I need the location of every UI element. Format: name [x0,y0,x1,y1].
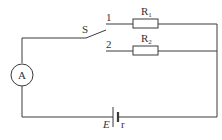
resistor-r2 [133,46,158,55]
terminal-1-label: 1 [106,11,112,23]
resistor-r1-label: R1 [141,5,152,19]
battery-r-label: r [121,118,125,130]
switch-label: S [82,23,88,35]
battery-emf-label: E [102,118,110,130]
resistor-r2-label: R2 [141,32,152,46]
terminal-2-label: 2 [106,38,112,50]
resistor-r1 [133,19,158,28]
circuit-diagram: S 1 R1 2 R2 A E r [0,0,222,140]
ammeter-label: A [18,69,26,81]
switch-arm [86,30,106,38]
wire-left-top [22,38,86,63]
